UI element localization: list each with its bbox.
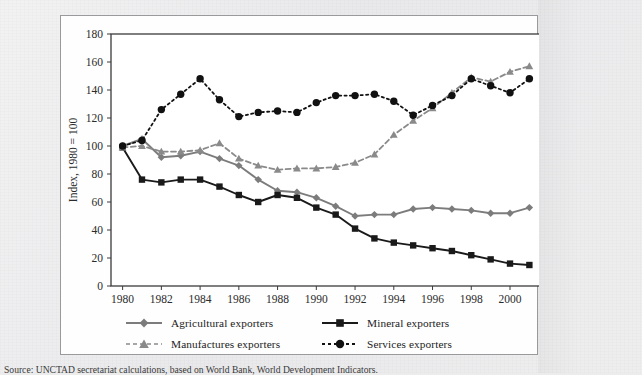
data-point — [197, 176, 203, 182]
data-point — [332, 211, 338, 217]
data-point — [351, 92, 358, 99]
data-point — [294, 195, 300, 201]
line-chart: 0204060801001201401601801980198219841986… — [61, 16, 539, 306]
legend-label-agricultural-exporters: Agricultural exporters — [171, 317, 273, 329]
figure-source-note: Source: UNCTAD secretariat calculations,… — [4, 364, 638, 375]
y-tick-label: 80 — [92, 168, 104, 180]
data-point — [293, 109, 300, 116]
legend-row-2: Manufactures exporters Services exporter… — [61, 333, 539, 354]
page-margin-shade — [538, 0, 642, 373]
data-point — [391, 239, 397, 245]
legend-item-manufactures-exporters: Manufactures exporters — [124, 337, 320, 351]
data-point — [196, 75, 203, 82]
data-point — [178, 176, 184, 182]
x-tick-label: 1982 — [150, 293, 173, 305]
data-point — [313, 99, 320, 106]
legend-label-mineral-exporters: Mineral exporters — [367, 317, 449, 329]
data-point — [332, 92, 339, 99]
data-point — [158, 179, 164, 185]
legend-label-manufactures-exporters: Manufactures exporters — [171, 338, 280, 350]
y-tick-label: 100 — [86, 140, 104, 152]
y-tick-label: 120 — [86, 112, 104, 124]
data-point — [449, 248, 455, 254]
data-point — [255, 199, 261, 205]
diamond-marker — [124, 316, 164, 330]
data-point — [139, 176, 145, 182]
data-point — [487, 82, 494, 89]
x-tick-label: 1994 — [382, 293, 405, 305]
y-tick-label: 20 — [92, 252, 104, 264]
data-point — [507, 260, 513, 266]
data-point — [119, 142, 126, 149]
y-tick-label: 0 — [97, 280, 103, 292]
x-tick-label: 1984 — [189, 293, 212, 305]
y-tick-label: 40 — [92, 224, 104, 236]
x-tick-label: 1980 — [111, 293, 134, 305]
data-point — [468, 75, 475, 82]
data-point — [274, 107, 281, 114]
data-point — [313, 204, 319, 210]
data-point — [410, 242, 416, 248]
data-point — [526, 262, 532, 268]
figure-container: 0204060801001201401601801980198219841986… — [60, 15, 538, 355]
legend-row-1: Agricultural exporters Mineral exporters — [61, 312, 539, 333]
legend-item-mineral-exporters: Mineral exporters — [320, 316, 516, 330]
square-marker — [320, 316, 360, 330]
data-point — [409, 112, 416, 119]
y-tick-label: 60 — [92, 196, 104, 208]
x-tick-label: 2000 — [499, 293, 522, 305]
data-point — [371, 91, 378, 98]
y-tick-label: 140 — [86, 84, 104, 96]
data-point — [274, 192, 280, 198]
y-tick-label: 160 — [86, 56, 104, 68]
triangle-marker — [124, 337, 164, 351]
data-point — [255, 109, 262, 116]
data-point — [468, 252, 474, 258]
data-point — [429, 245, 435, 251]
x-tick-label: 1988 — [266, 293, 289, 305]
legend-label-services-exporters: Services exporters — [367, 338, 452, 350]
data-point — [429, 102, 436, 109]
chart-plot-area: 0204060801001201401601801980198219841986… — [61, 16, 539, 306]
x-tick-label: 1986 — [227, 293, 250, 305]
y-tick-label: 180 — [86, 28, 104, 40]
data-point — [235, 113, 242, 120]
legend-item-agricultural-exporters: Agricultural exporters — [124, 316, 320, 330]
x-tick-label: 1990 — [305, 293, 328, 305]
data-point — [216, 96, 223, 103]
data-point — [506, 89, 513, 96]
data-point — [448, 92, 455, 99]
data-point — [236, 192, 242, 198]
data-point — [138, 137, 145, 144]
data-point — [177, 91, 184, 98]
data-point — [158, 106, 165, 113]
data-point — [487, 256, 493, 262]
circle-marker — [320, 337, 360, 351]
y-axis-title: Index, 1980 = 100 — [67, 118, 80, 203]
data-point — [390, 98, 397, 105]
data-point — [371, 235, 377, 241]
data-point — [526, 75, 533, 82]
chart-legend: Agricultural exporters Mineral exporters… — [61, 312, 539, 354]
data-point — [352, 225, 358, 231]
data-point — [216, 183, 222, 189]
x-tick-label: 1992 — [344, 293, 367, 305]
legend-item-services-exporters: Services exporters — [320, 337, 516, 351]
x-tick-label: 1998 — [460, 293, 483, 305]
x-tick-label: 1996 — [421, 293, 444, 305]
